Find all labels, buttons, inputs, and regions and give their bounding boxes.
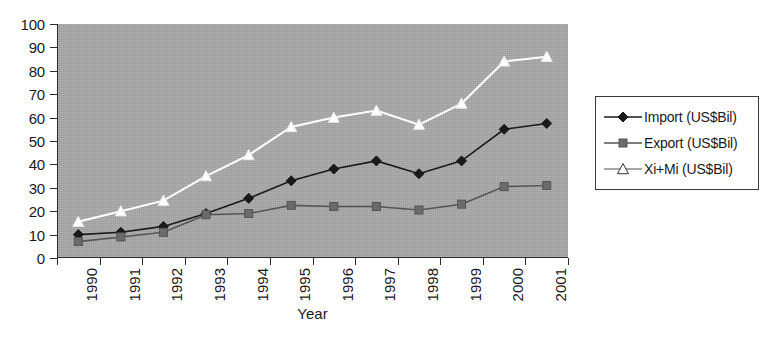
x-tick-label: 1995 bbox=[297, 268, 312, 301]
plot-area bbox=[57, 24, 568, 258]
y-axis: 1009080706050403020100 bbox=[0, 24, 57, 258]
legend-item: Export (US$Bil) bbox=[602, 130, 752, 156]
x-tick-label: 1996 bbox=[340, 268, 355, 301]
series-2 bbox=[74, 181, 550, 245]
y-tick-mark bbox=[50, 118, 57, 119]
x-tick-label: 1999 bbox=[468, 268, 483, 301]
y-tick-label: 0 bbox=[37, 251, 45, 266]
data-point bbox=[371, 105, 382, 115]
x-tick-mark bbox=[398, 258, 399, 265]
y-tick-label: 70 bbox=[29, 87, 45, 102]
y-tick-label: 40 bbox=[29, 157, 45, 172]
x-axis-title: Year bbox=[57, 305, 568, 322]
legend-key-triangle-icon bbox=[602, 159, 644, 179]
y-tick-label: 20 bbox=[29, 204, 45, 219]
data-point bbox=[543, 181, 551, 189]
x-tick-mark bbox=[100, 258, 101, 265]
chart-legend: Import (US$Bil)Export (US$Bil)Xi+Mi (US$… bbox=[595, 96, 759, 190]
x-tick-label: 2000 bbox=[510, 268, 525, 301]
data-point bbox=[330, 203, 338, 211]
line-chart: 1009080706050403020100 19901991199219931… bbox=[0, 0, 769, 338]
data-point bbox=[287, 201, 295, 209]
x-tick-mark bbox=[313, 258, 314, 265]
x-tick-mark bbox=[568, 258, 569, 265]
x-tick-mark bbox=[270, 258, 271, 265]
data-point bbox=[329, 164, 339, 174]
x-tick-mark bbox=[525, 258, 526, 265]
data-point bbox=[458, 200, 466, 208]
y-tick-mark bbox=[50, 164, 57, 165]
data-point bbox=[243, 150, 254, 160]
data-point bbox=[201, 171, 212, 181]
x-tick-mark bbox=[185, 258, 186, 265]
data-point bbox=[371, 156, 381, 166]
y-tick-mark bbox=[50, 47, 57, 48]
x-tick-label: 1990 bbox=[84, 268, 99, 301]
x-tick-label: 1991 bbox=[127, 268, 142, 301]
data-point bbox=[202, 211, 210, 219]
x-tick-label: 2001 bbox=[553, 268, 568, 301]
data-point bbox=[117, 233, 125, 241]
x-tick-mark bbox=[142, 258, 143, 265]
y-tick-label: 60 bbox=[29, 110, 45, 125]
series-1 bbox=[73, 118, 551, 239]
y-tick-mark bbox=[50, 71, 57, 72]
legend-label: Export (US$Bil) bbox=[644, 135, 737, 151]
x-tick-label: 1994 bbox=[255, 268, 270, 301]
series-3 bbox=[73, 51, 552, 226]
x-tick-label: 1997 bbox=[382, 268, 397, 301]
y-tick-mark bbox=[50, 211, 57, 212]
legend-key-square-icon bbox=[602, 133, 644, 153]
y-tick-label: 80 bbox=[29, 63, 45, 78]
legend-label: Xi+Mi (US$Bil) bbox=[644, 161, 733, 177]
x-tick-mark bbox=[57, 258, 58, 265]
data-point bbox=[415, 206, 423, 214]
data-point bbox=[500, 183, 508, 191]
y-tick-label: 90 bbox=[29, 40, 45, 55]
legend-label: Import (US$Bil) bbox=[644, 109, 737, 125]
data-point bbox=[158, 195, 169, 205]
y-tick-mark bbox=[50, 94, 57, 95]
series-line bbox=[78, 123, 546, 234]
data-point bbox=[286, 176, 296, 186]
data-point bbox=[372, 203, 380, 211]
y-tick-label: 100 bbox=[21, 17, 45, 32]
series-line bbox=[78, 57, 546, 222]
y-tick-mark bbox=[50, 235, 57, 236]
data-point bbox=[74, 238, 82, 246]
y-tick-mark bbox=[50, 188, 57, 189]
y-tick-mark bbox=[50, 141, 57, 142]
data-point bbox=[159, 228, 167, 236]
y-tick-label: 10 bbox=[29, 227, 45, 242]
y-tick-label: 50 bbox=[29, 134, 45, 149]
legend-item: Xi+Mi (US$Bil) bbox=[602, 156, 752, 182]
x-tick-label: 1992 bbox=[169, 268, 184, 301]
x-tick-mark bbox=[483, 258, 484, 265]
data-point bbox=[542, 118, 552, 128]
x-tick-mark bbox=[355, 258, 356, 265]
x-tick-mark bbox=[440, 258, 441, 265]
x-tick-label: 1998 bbox=[425, 268, 440, 301]
x-tick-label: 1993 bbox=[212, 268, 227, 301]
data-point bbox=[244, 193, 254, 203]
series-line bbox=[78, 185, 546, 241]
data-point bbox=[414, 169, 424, 179]
y-tick-mark bbox=[50, 24, 57, 25]
series-layer bbox=[57, 24, 568, 258]
legend-key-diamond-icon bbox=[602, 107, 644, 127]
y-tick-label: 30 bbox=[29, 180, 45, 195]
x-tick-mark bbox=[227, 258, 228, 265]
data-point bbox=[245, 210, 253, 218]
y-tick-mark bbox=[50, 258, 57, 259]
legend-item: Import (US$Bil) bbox=[602, 104, 752, 130]
